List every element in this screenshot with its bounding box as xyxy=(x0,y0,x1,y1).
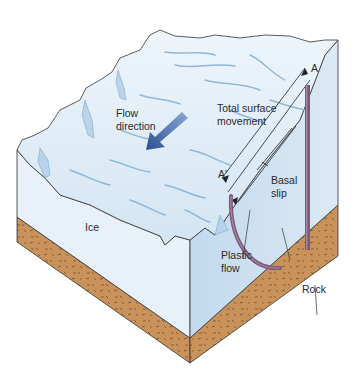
pole-original xyxy=(305,85,310,250)
point-a-prime-label: A' xyxy=(218,168,227,180)
glacier-block-diagram: Flow direction Total surface movement A … xyxy=(0,0,355,381)
rock-label: Rock xyxy=(302,283,327,295)
ice-label: Ice xyxy=(85,221,99,233)
point-a-label: A xyxy=(311,62,318,74)
pole-original-highlight xyxy=(306,85,307,250)
